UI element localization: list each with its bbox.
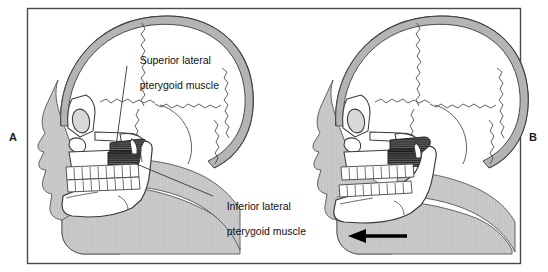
label-superior-lateral-pterygoid: Superior lateral pterygoid muscle <box>128 41 219 104</box>
panel-label-a: A <box>9 131 17 143</box>
label-inferior-line1: Inferior lateral <box>227 200 291 212</box>
label-inferior-lateral-pterygoid: Inferior lateral pterygoid muscle <box>215 187 306 250</box>
mandibular-teeth-a <box>67 177 140 192</box>
panel-label-b: B <box>529 131 537 143</box>
maxillary-teeth-b <box>341 164 414 180</box>
label-inferior-line2: pterygoid muscle <box>227 225 306 237</box>
figure-root: A B Superior lateral pterygoid muscle In… <box>0 0 548 272</box>
label-superior-line1: Superior lateral <box>140 54 211 66</box>
label-superior-line2: pterygoid muscle <box>140 79 219 91</box>
